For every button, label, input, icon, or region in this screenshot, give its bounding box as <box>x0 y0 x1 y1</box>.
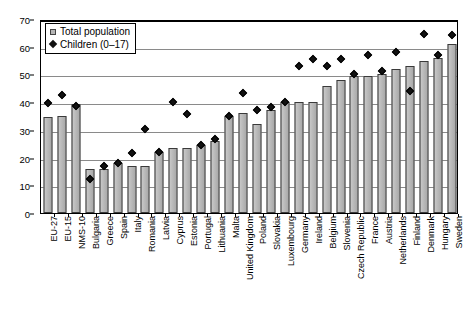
diamond-marker <box>266 103 275 112</box>
x-tick-label: Lithuania <box>218 216 227 253</box>
x-tick-label: Hungary <box>441 216 450 250</box>
y-tick-label: 20 <box>19 153 30 164</box>
diamond-marker <box>211 135 220 144</box>
x-tick-label: Belgium <box>329 216 338 249</box>
y-tick-mark <box>30 158 34 159</box>
diamond-marker <box>350 70 359 79</box>
x-tick-label: Greece <box>106 216 115 246</box>
diamond-marker <box>113 159 122 168</box>
diamond-column <box>250 21 264 213</box>
diamond-marker <box>43 99 52 108</box>
y-tick-label: 40 <box>19 98 30 109</box>
grey-square-icon <box>50 29 56 35</box>
y-tick-label: 60 <box>19 42 30 53</box>
x-tick-label: France <box>371 216 380 244</box>
diamond-marker <box>378 67 387 76</box>
diamond-column <box>320 21 334 213</box>
y-tick-mark <box>30 103 34 104</box>
diamond-marker <box>197 141 206 150</box>
legend-item-total-population: Total population <box>50 26 130 38</box>
x-tick-label: Estonia <box>190 216 199 246</box>
x-tick-label: Portugal <box>204 216 213 250</box>
diamond-marker <box>169 98 178 107</box>
diamond-marker <box>183 110 192 119</box>
x-axis-labels: EU-27EU-15NMS-10BulgariaGreeceSpainItaly… <box>40 216 458 312</box>
y-tick-mark <box>30 186 34 187</box>
diamond-marker <box>99 161 108 170</box>
diamond-column <box>222 21 236 213</box>
diamond-column <box>375 21 389 213</box>
diamond-column <box>348 21 362 213</box>
diamond-column <box>180 21 194 213</box>
x-tick-label: United Kingdom <box>246 216 255 280</box>
diamond-marker <box>71 102 80 111</box>
diamond-column <box>306 21 320 213</box>
y-tick-mark <box>30 214 34 215</box>
x-tick-label: Sweden <box>455 216 464 249</box>
diamond-marker <box>280 98 289 107</box>
diamond-column <box>152 21 166 213</box>
diamond-marker <box>141 125 150 134</box>
legend-label-total-population: Total population <box>60 26 130 38</box>
y-tick-mark <box>30 75 34 76</box>
diamond-marker <box>308 55 317 64</box>
y-tick-label: 30 <box>19 125 30 136</box>
x-tick-label: Austria <box>385 216 394 244</box>
x-tick-label: Germany <box>301 216 310 253</box>
x-tick-label: EU-15 <box>64 216 73 242</box>
x-tick-label: NMS-10 <box>78 216 87 249</box>
x-tick-label: Slovakia <box>273 216 282 250</box>
diamond-marker <box>364 51 373 60</box>
x-tick-label: Romania <box>148 216 157 252</box>
x-tick-label: Latvia <box>162 216 171 240</box>
diamond-marker <box>225 111 234 120</box>
diamond-column <box>403 21 417 213</box>
diamond-column <box>236 21 250 213</box>
diamond-column <box>445 21 459 213</box>
diamond-marker <box>406 87 415 96</box>
legend-item-children: Children (0–17) <box>50 39 130 51</box>
legend-label-children: Children (0–17) <box>60 39 129 51</box>
diamond-column <box>139 21 153 213</box>
diamond-marker <box>420 30 429 39</box>
diamond-marker <box>85 175 94 184</box>
diamond-column <box>208 21 222 213</box>
diamond-marker <box>238 89 247 98</box>
diamond-column <box>264 21 278 213</box>
diamond-marker <box>127 149 136 158</box>
x-tick-label: Spain <box>120 216 129 239</box>
diamond-column <box>166 21 180 213</box>
diamond-marker <box>252 106 261 115</box>
diamond-marker <box>155 148 164 157</box>
x-tick-label: Netherlands <box>399 216 408 265</box>
diamond-marker <box>447 31 456 40</box>
x-tick-label: EU-27 <box>50 216 59 242</box>
x-tick-label: Ireland <box>315 216 324 244</box>
diamond-column <box>361 21 375 213</box>
x-tick-label: Luxembourg <box>287 216 296 266</box>
diamond-column <box>389 21 403 213</box>
diamond-column <box>431 21 445 213</box>
diamond-marker <box>434 51 443 60</box>
diamond-marker <box>294 62 303 71</box>
diamond-column <box>194 21 208 213</box>
diamond-marker <box>336 55 345 64</box>
y-tick-mark <box>30 20 34 21</box>
x-tick-label: Malta <box>232 216 241 238</box>
population-chart: 010203040506070 EU-27EU-15NMS-10Bulgaria… <box>0 0 467 313</box>
diamond-marker <box>392 48 401 57</box>
y-tick-mark <box>30 47 34 48</box>
x-tick-label: Finland <box>413 216 422 246</box>
x-tick-label: Denmark <box>427 216 436 253</box>
x-tick-label: Slovenia <box>343 216 352 251</box>
y-tick-label: 70 <box>19 15 30 26</box>
diamond-column <box>278 21 292 213</box>
chart-legend: Total population Children (0–17) <box>45 23 136 54</box>
x-tick-label: Czech Republic <box>357 216 366 279</box>
black-diamond-icon <box>49 40 57 48</box>
y-tick-label: 50 <box>19 70 30 81</box>
y-axis: 010203040506070 <box>0 20 34 214</box>
diamond-marker <box>57 91 66 100</box>
y-tick-label: 10 <box>19 181 30 192</box>
x-tick-label: Cyprus <box>176 216 185 245</box>
